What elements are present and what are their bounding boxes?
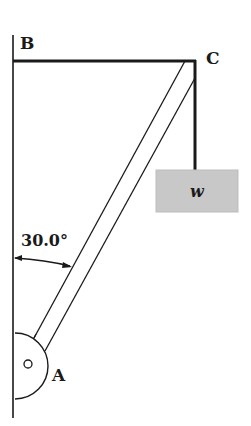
label-a: A	[51, 365, 66, 385]
angle-label: 30.0°	[21, 231, 68, 250]
arrowhead-left-icon	[14, 255, 22, 261]
boom-edge-right	[45, 78, 195, 351]
boom-diagram: w 30.0° B C A	[0, 0, 251, 426]
weight-label: w	[190, 182, 205, 201]
label-b: B	[20, 33, 34, 53]
boom-edge-left-end	[34, 334, 36, 338]
arrowhead-right-icon	[62, 262, 72, 268]
angle-arc	[15, 258, 70, 266]
label-c: C	[206, 48, 220, 68]
